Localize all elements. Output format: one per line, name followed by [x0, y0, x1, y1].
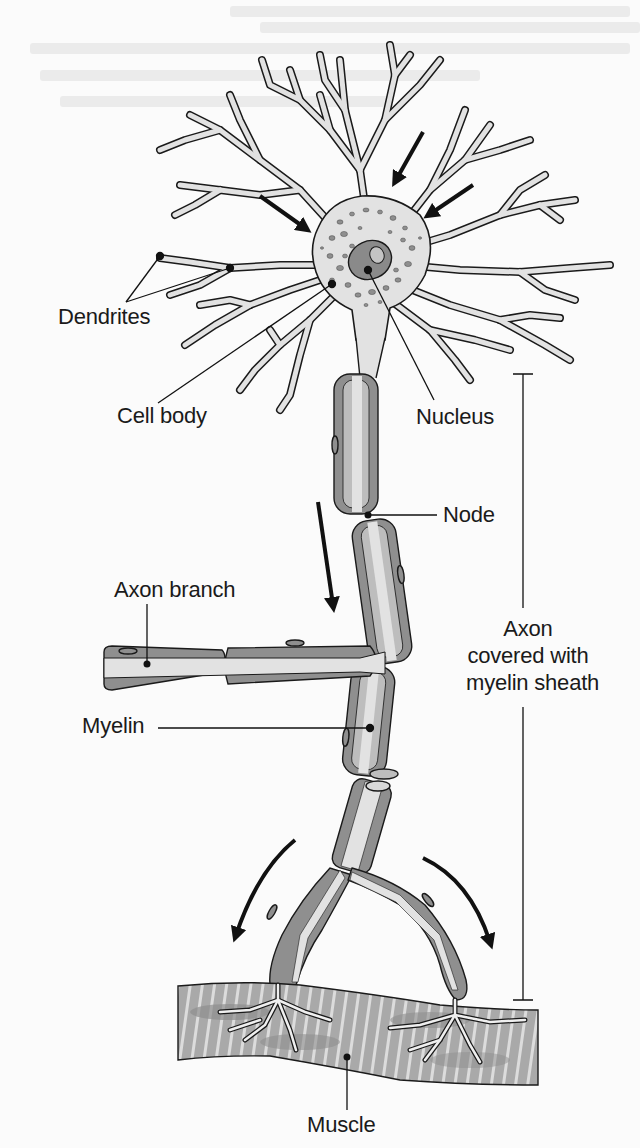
label-muscle: Muscle [307, 1112, 376, 1138]
axon-terminals [265, 868, 466, 1000]
label-axon-branch: Axon branch [114, 577, 235, 603]
label-cell-body: Cell body [117, 403, 207, 429]
neuron-diagram [0, 0, 640, 1148]
label-axon-line3: myelin sheath [466, 669, 590, 696]
label-node: Node [443, 502, 495, 528]
label-axon-line2: covered with [466, 642, 590, 669]
main-axon [330, 374, 416, 876]
label-nucleus: Nucleus [416, 404, 494, 430]
muscle-fiber [178, 983, 538, 1085]
label-axon-myelin-sheath: Axon covered with myelin sheath [466, 615, 590, 696]
label-dendrites: Dendrites [58, 304, 150, 330]
label-myelin: Myelin [82, 713, 144, 739]
label-axon-line1: Axon [466, 615, 590, 642]
